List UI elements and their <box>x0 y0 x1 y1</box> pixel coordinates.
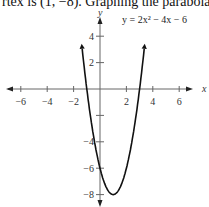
y-axis-up-arrow-icon <box>98 17 103 24</box>
x-axis-right-arrow-icon <box>186 87 193 92</box>
x-tick-label: −4 <box>42 96 53 107</box>
y-axis-label: y <box>97 7 103 18</box>
x-tick-label: −2 <box>68 96 79 107</box>
curve-arrow-icon <box>80 44 85 49</box>
chart-root: rtex is (1, −8). Graphing the parabola: … <box>0 0 209 207</box>
x-tick-label: 2 <box>124 96 129 107</box>
parabola-plot: xy−6−4−224642−4−6−8y = 2x² − 4x − 6 <box>0 0 209 207</box>
curve-arrow-icon <box>142 44 147 49</box>
equation-label: y = 2x² − 4x − 6 <box>122 14 187 25</box>
x-axis-label: x <box>201 83 207 94</box>
y-tick-label: 2 <box>89 57 94 68</box>
x-tick-label: 6 <box>177 96 182 107</box>
y-tick-label: −8 <box>83 189 94 200</box>
y-tick-label: −6 <box>83 163 94 174</box>
y-tick-label: −4 <box>83 136 94 147</box>
x-tick-label: −6 <box>15 96 26 107</box>
y-axis-down-arrow-icon <box>98 200 103 207</box>
y-tick-label: 4 <box>89 31 94 42</box>
x-axis-left-arrow-icon <box>6 87 13 92</box>
x-tick-label: 4 <box>150 96 155 107</box>
